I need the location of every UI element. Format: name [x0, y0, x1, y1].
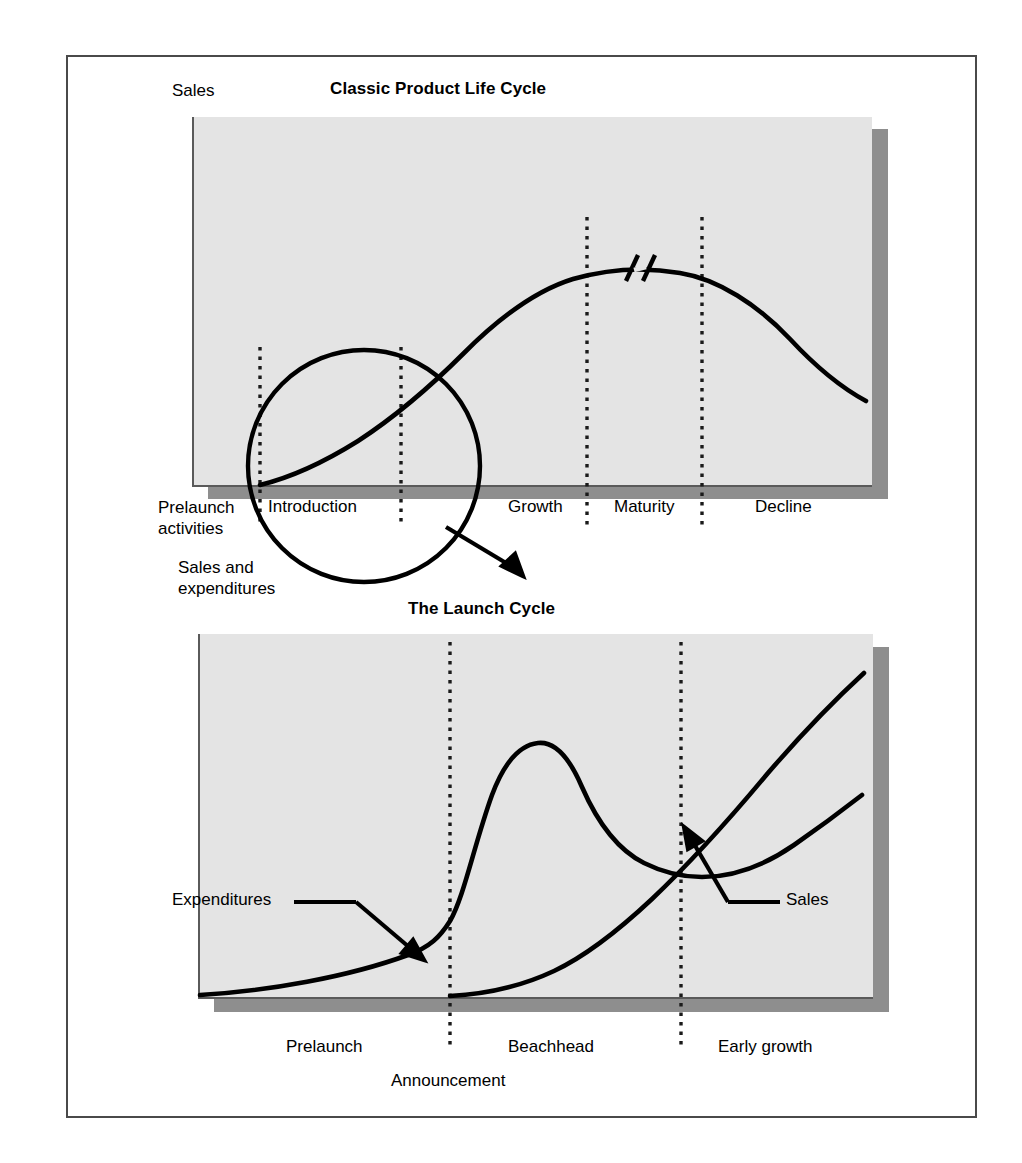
- bottom-stage-label-beachhead: Beachhead: [508, 1037, 594, 1057]
- magnifier-pointer-arrow: [446, 527, 523, 576]
- bottom-chart-sales-curve: [450, 673, 864, 996]
- top-stage-label-prelaunch-line2: activities: [158, 519, 223, 538]
- top-stage-label-prelaunch: Prelaunch activities: [158, 497, 235, 539]
- bottom-stage-label-early-growth: Early growth: [718, 1037, 812, 1057]
- magnifier-caption-line1: Sales and: [178, 558, 254, 577]
- sales-leader: [684, 827, 780, 902]
- bottom-chart-sales-label: Sales: [786, 890, 829, 910]
- top-chart: Sales Classic Product Life Cycle: [68, 57, 979, 557]
- top-stage-label-prelaunch-line1: Prelaunch: [158, 498, 235, 517]
- bottom-stage-label-prelaunch: Prelaunch: [286, 1037, 363, 1057]
- top-stage-label-introduction: Introduction: [268, 497, 357, 517]
- expenditures-leader: [294, 902, 424, 960]
- magnifier-circle: [248, 350, 480, 582]
- top-chart-sales-curve: [260, 270, 866, 485]
- top-stage-label-maturity: Maturity: [614, 497, 674, 517]
- top-stage-label-growth: Growth: [508, 497, 563, 517]
- figure-frame: Sales Classic Product Life Cycle: [66, 55, 977, 1118]
- bottom-chart: The Launch Cycle: [68, 587, 979, 1117]
- top-chart-plot-svg: [68, 57, 979, 557]
- top-stage-label-decline: Decline: [755, 497, 812, 517]
- bottom-chart-expenditures-label: Expenditures: [172, 890, 271, 910]
- bottom-chart-announcement-label: Announcement: [391, 1071, 505, 1091]
